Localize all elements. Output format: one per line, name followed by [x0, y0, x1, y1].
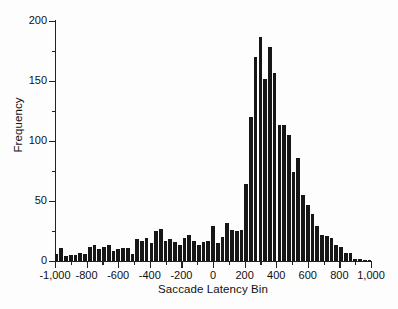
x-tick-minor	[102, 261, 103, 265]
histogram-bar	[135, 239, 139, 261]
x-tick-minor	[324, 261, 325, 265]
histogram-bar	[74, 255, 78, 261]
histogram-bar	[353, 259, 357, 261]
histogram-bar	[197, 245, 201, 261]
histogram-bar	[254, 57, 258, 261]
histogram-bar	[225, 223, 229, 261]
histogram-bar	[59, 248, 63, 261]
histogram-bar	[344, 253, 348, 261]
histogram-bar	[88, 247, 92, 261]
histogram-bar	[140, 241, 144, 261]
histogram-figure: Frequency 050100150200 -1,000-800-600-40…	[0, 0, 398, 309]
histogram-bar	[320, 235, 324, 261]
histogram-bar	[221, 237, 225, 261]
histogram-bar	[69, 255, 73, 261]
x-tick-minor	[166, 261, 167, 265]
histogram-bar	[64, 256, 68, 261]
y-tick-label: 0	[41, 254, 47, 266]
x-tick-major	[181, 261, 182, 268]
histogram-bar	[282, 125, 286, 261]
histogram-bar	[131, 254, 135, 261]
x-tick-label: -1,000	[39, 269, 70, 281]
histogram-bar	[150, 243, 154, 261]
x-tick-label: 200	[235, 269, 253, 281]
histogram-bar	[311, 214, 315, 261]
histogram-bar	[206, 241, 210, 261]
histogram-bar	[173, 242, 177, 261]
x-tick-label: 0	[210, 269, 216, 281]
histogram-bar	[339, 247, 343, 261]
histogram-bar	[278, 125, 282, 261]
histogram-bar	[112, 251, 116, 261]
x-tick-major	[245, 261, 246, 268]
histogram-bar	[325, 236, 329, 261]
histogram-bar	[301, 195, 305, 261]
histogram-bar	[334, 245, 338, 261]
histogram-bar	[97, 249, 101, 261]
histogram-bar	[244, 184, 248, 261]
histogram-bar	[126, 248, 130, 261]
x-tick-label: 400	[267, 269, 285, 281]
histogram-bar	[78, 253, 82, 261]
histogram-bar	[192, 241, 196, 261]
x-tick-minor	[71, 261, 72, 265]
histogram-bar	[296, 158, 300, 261]
histogram-bar	[368, 260, 372, 261]
histogram-bar	[216, 243, 220, 261]
histogram-bar	[292, 172, 296, 261]
histogram-bar	[121, 248, 125, 261]
y-tick-label: 100	[29, 134, 47, 146]
histogram-bar	[349, 253, 353, 261]
x-tick-major	[87, 261, 88, 268]
histogram-bar	[268, 47, 272, 261]
y-tick-label: 50	[35, 194, 47, 206]
histogram-bar	[211, 226, 215, 261]
histogram-bar	[249, 117, 253, 261]
histogram-bar	[159, 229, 163, 261]
y-tick-label: 200	[29, 14, 47, 26]
x-tick-minor	[197, 261, 198, 265]
y-axis-title-text: Frequency	[12, 97, 24, 152]
histogram-bar	[145, 238, 149, 261]
x-tick-major	[118, 261, 119, 268]
x-tick-minor	[355, 261, 356, 265]
y-tick-label: 150	[29, 74, 47, 86]
x-tick-label: -400	[139, 269, 161, 281]
x-tick-label: 1,000	[357, 269, 385, 281]
histogram-bar	[273, 73, 277, 261]
x-tick-major	[371, 261, 372, 268]
histogram-bar	[330, 238, 334, 261]
histogram-bar	[178, 245, 182, 261]
x-tick-minor	[229, 261, 230, 265]
histogram-bar	[183, 238, 187, 261]
x-axis-title: Saccade Latency Bin	[55, 283, 371, 295]
histogram-bar	[230, 230, 234, 261]
histogram-bars	[55, 21, 371, 261]
histogram-bar	[263, 79, 267, 261]
x-tick-label: 800	[330, 269, 348, 281]
x-tick-major	[55, 261, 56, 268]
x-tick-label: -800	[76, 269, 98, 281]
histogram-bar	[358, 259, 362, 261]
histogram-bar	[154, 231, 158, 261]
histogram-bar	[315, 226, 319, 261]
x-tick-major	[308, 261, 309, 268]
histogram-bar	[55, 254, 59, 261]
histogram-bar	[164, 241, 168, 261]
histogram-bar	[363, 260, 367, 261]
histogram-bar	[83, 254, 87, 261]
histogram-bar	[187, 235, 191, 261]
histogram-bar	[235, 231, 239, 261]
histogram-bar	[107, 245, 111, 261]
x-tick-major	[276, 261, 277, 268]
histogram-bar	[168, 239, 172, 261]
x-tick-major	[213, 261, 214, 268]
x-tick-minor	[260, 261, 261, 265]
x-tick-major	[339, 261, 340, 268]
histogram-bar	[240, 230, 244, 261]
histogram-bar	[93, 245, 97, 261]
x-tick-minor	[134, 261, 135, 265]
y-axis-title: Frequency	[6, 0, 30, 250]
histogram-bar	[116, 249, 120, 261]
x-tick-label: -600	[107, 269, 129, 281]
